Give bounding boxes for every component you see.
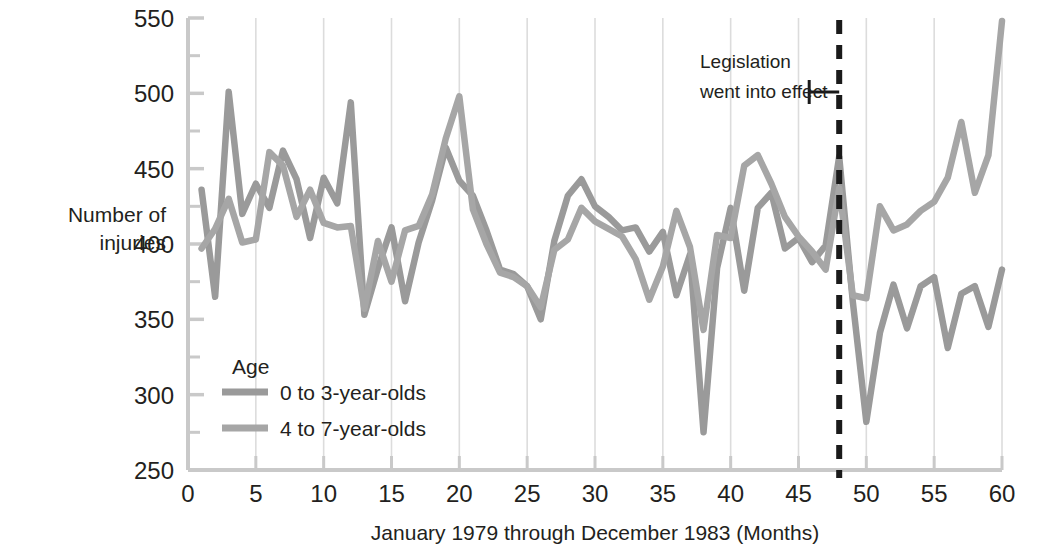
x-axis-ticks xyxy=(188,456,1002,470)
y-tick-label: 450 xyxy=(134,156,174,183)
x-axis-tick-labels: 051015202530354045505560 xyxy=(181,480,1015,507)
x-tick-label: 0 xyxy=(181,480,194,507)
x-tick-label: 20 xyxy=(446,480,473,507)
legend-label-series-1: 4 to 7-year-olds xyxy=(280,417,426,440)
annotation-line2: went into effect xyxy=(699,81,828,102)
x-tick-label: 35 xyxy=(649,480,676,507)
y-axis-title-line1: Number of xyxy=(68,203,166,226)
y-axis-title-line2: injuries xyxy=(99,231,166,254)
x-tick-label: 55 xyxy=(921,480,948,507)
y-tick-label: 300 xyxy=(134,382,174,409)
x-tick-label: 40 xyxy=(717,480,744,507)
x-tick-label: 25 xyxy=(514,480,541,507)
line-chart: 250300350400450500550 051015202530354045… xyxy=(0,0,1038,558)
x-axis-title: January 1979 through December 1983 (Mont… xyxy=(371,521,819,544)
x-tick-label: 60 xyxy=(989,480,1016,507)
y-tick-label: 250 xyxy=(134,457,174,484)
x-tick-label: 5 xyxy=(249,480,262,507)
legend-label-series-0: 0 to 3-year-olds xyxy=(280,381,426,404)
x-tick-label: 45 xyxy=(785,480,812,507)
x-tick-label: 50 xyxy=(853,480,880,507)
x-tick-label: 30 xyxy=(582,480,609,507)
y-tick-label: 550 xyxy=(134,5,174,32)
data-series-group xyxy=(202,21,1002,432)
x-tick-label: 10 xyxy=(310,480,337,507)
x-tick-label: 15 xyxy=(378,480,405,507)
legend-title: Age xyxy=(232,355,269,378)
y-tick-label: 500 xyxy=(134,80,174,107)
chart-figure: 250300350400450500550 051015202530354045… xyxy=(0,0,1038,558)
y-tick-label: 350 xyxy=(134,306,174,333)
annotation-line1: Legislation xyxy=(700,51,791,72)
